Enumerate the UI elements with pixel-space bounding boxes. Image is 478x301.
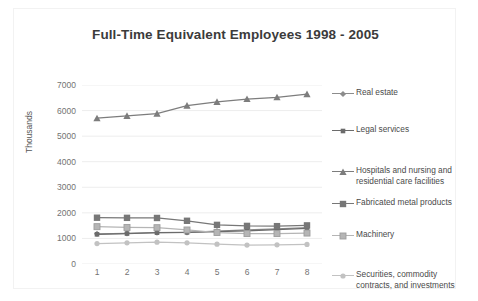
data-point-marker [125,231,130,236]
y-axis-tick: 7000 [36,80,76,90]
legend-label-line1: Legal services [356,124,409,135]
data-point-marker [304,222,310,228]
data-point-marker [244,223,250,229]
series-2 [93,91,310,122]
legend-label-line1: Fabricated metal products [356,197,452,208]
y-axis-tick: 5000 [36,131,76,141]
data-point-marker [184,227,190,233]
legend-label-line1: Hospitals and nursing and [356,165,452,176]
legend-marker-icon [332,230,354,241]
data-point-marker [184,218,190,224]
legend-item-0[interactable]: Real estate [332,87,460,99]
chart-container: Full-Time Equivalent Employees 1998 - 20… [13,8,456,289]
data-point-marker [124,215,130,221]
y-axis-tick: 1000 [36,233,76,243]
legend-marker-icon [332,198,354,209]
legend-label: Securities, commoditycontracts, and inve… [354,269,455,290]
data-point-marker [274,231,280,237]
x-axis-tick: 2 [115,267,139,277]
legend-item-5[interactable]: Securities, commoditycontracts, and inve… [332,269,460,290]
data-point-marker [214,242,219,247]
data-point-marker [340,201,346,207]
data-point-marker [340,91,346,97]
legend-item-3[interactable]: Fabricated metal products [332,197,460,209]
data-point-marker [341,129,346,134]
legend-label-line1: Real estate [356,87,398,98]
legend-label-line1: Securities, commodity [356,269,455,280]
x-axis-tick: 4 [175,267,199,277]
data-point-marker [274,223,280,229]
legend-label-line1: Machinery [356,229,394,240]
series-canvas [82,85,322,264]
legend-label-line2: contracts, and investments [356,280,455,291]
data-point-marker [94,224,100,230]
x-axis-tick: 6 [235,267,259,277]
y-axis-tick: 2000 [36,208,76,218]
data-point-marker [214,230,220,236]
series-5 [94,240,309,248]
legend-label: Real estate [354,87,398,98]
data-point-marker [94,215,100,221]
chart-title: Full-Time Equivalent Employees 1998 - 20… [14,27,457,42]
data-point-marker [124,240,129,245]
x-axis-tick: 8 [295,267,319,277]
legend-marker-icon [332,166,354,177]
legend-marker-icon [332,88,354,99]
data-point-marker [304,242,309,247]
data-point-marker [124,224,130,230]
legend-marker-icon [332,270,354,281]
data-point-marker [214,222,220,228]
data-point-marker [154,240,159,245]
legend-item-1[interactable]: Legal services [332,124,460,136]
y-axis-title: Thousands [24,77,34,187]
y-axis-tick: 4000 [36,157,76,167]
legend-marker-icon [332,125,354,136]
data-point-marker [184,240,189,245]
legend-item-4[interactable]: Machinery [332,229,460,241]
data-point-marker [304,230,310,236]
data-point-marker [154,225,160,231]
plot-wrapper: 01000200030004000500060007000 12345678 [82,77,322,267]
legend-label: Machinery [354,229,394,240]
legend-label: Hospitals and nursing andresidential car… [354,165,452,186]
data-point-marker [274,242,279,247]
legend-label: Fabricated metal products [354,197,452,208]
plot-area [82,85,322,264]
legend-label-line2: residential care facilities [356,176,452,187]
legend-item-2[interactable]: Hospitals and nursing andresidential car… [332,165,460,186]
data-point-marker [340,233,346,239]
y-axis-tick: 6000 [36,106,76,116]
data-point-marker [339,168,346,175]
data-point-marker [95,232,100,237]
x-axis-tick: 5 [205,267,229,277]
x-axis-tick: 3 [145,267,169,277]
x-axis-tick: 7 [265,267,289,277]
x-axis-tick: 1 [85,267,109,277]
data-point-marker [94,241,99,246]
legend-label: Legal services [354,124,409,135]
data-point-marker [340,273,345,278]
y-axis-tick: 3000 [36,182,76,192]
data-point-marker [244,231,250,237]
data-point-marker [244,242,249,247]
data-point-marker [154,215,160,221]
y-axis-tick: 0 [36,259,76,269]
